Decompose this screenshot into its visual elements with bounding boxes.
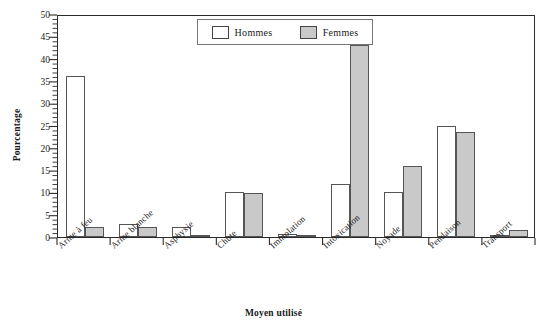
bar-hommes[interactable]	[66, 76, 85, 237]
y-axis-tick-label: 20	[14, 144, 50, 154]
y-axis-tick-label: 30	[14, 99, 50, 109]
legend-swatch-femmes-icon	[300, 26, 317, 39]
bar-femmes[interactable]	[403, 166, 422, 237]
y-axis-tick-label: 15	[14, 166, 50, 176]
bar-femmes[interactable]	[244, 193, 263, 237]
y-axis-tick-label: 45	[14, 32, 50, 42]
legend-entry-hommes[interactable]: Hommes	[212, 26, 273, 39]
y-axis-tick-label: 35	[14, 77, 50, 87]
chart-legend[interactable]: Hommes Femmes	[197, 19, 373, 45]
bar-femmes[interactable]	[509, 230, 528, 237]
legend-entry-femmes[interactable]: Femmes	[300, 26, 359, 39]
bar-femmes[interactable]	[297, 235, 316, 237]
bar-femmes[interactable]	[350, 45, 369, 237]
y-axis-tick-label: 40	[14, 55, 50, 65]
y-axis-tick-label: 0	[14, 233, 50, 243]
plot-area	[57, 15, 535, 238]
bar-femmes[interactable]	[138, 227, 157, 237]
bar-femmes[interactable]	[191, 235, 210, 237]
y-axis-tick-label: 5	[14, 211, 50, 221]
bar-femmes[interactable]	[85, 227, 104, 237]
legend-label-hommes: Hommes	[235, 27, 273, 38]
legend-label-femmes: Femmes	[323, 27, 359, 38]
bar-chart-figure: Pourcentage Moyen utilisé 05101520253035…	[0, 0, 547, 329]
legend-swatch-hommes-icon	[212, 26, 229, 39]
y-axis-tick-label: 10	[14, 188, 50, 198]
y-axis-tick-label: 50	[14, 10, 50, 20]
y-axis-tick-label: 25	[14, 122, 50, 132]
